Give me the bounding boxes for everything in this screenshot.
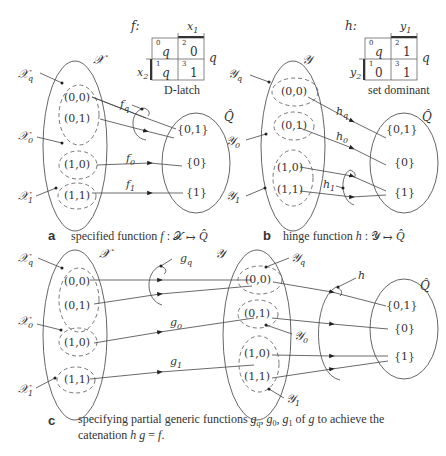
svg-text:(1,1): (1,1): [244, 370, 270, 383]
svg-text:𝒳1: 𝒳1: [18, 382, 33, 398]
svg-text:q: q: [162, 45, 170, 59]
panel-a-diagram: 𝒳 (0,0) (0,1) (1,0) (1,1) 𝒳q 𝒳0 𝒳1 fq f0…: [18, 52, 234, 231]
svg-text:{0,1}: {0,1}: [386, 299, 418, 312]
kmap-f-caption: D-latch: [164, 83, 200, 97]
svg-text:(1,1): (1,1): [64, 189, 90, 202]
svg-text:𝒴q: 𝒴q: [291, 251, 305, 267]
svg-text:c: c: [48, 413, 55, 428]
svg-text:(0,0): (0,0): [245, 273, 271, 286]
svg-text:1: 1: [403, 66, 411, 80]
svg-text:(0,0): (0,0): [64, 275, 90, 288]
svg-text:𝒳q: 𝒳q: [18, 67, 33, 83]
svg-text:1: 1: [156, 60, 160, 68]
svg-text:𝒴1: 𝒴1: [226, 189, 240, 205]
svg-text:Q̂: Q̂: [420, 278, 430, 293]
svg-text:gq: gq: [180, 252, 192, 267]
svg-text:g1: g1: [170, 355, 182, 370]
svg-text:y1: y1: [399, 20, 411, 35]
svg-text:(0,1): (0,1): [281, 119, 307, 132]
svg-text:{1}: {1}: [186, 186, 207, 199]
svg-text:1: 1: [190, 66, 198, 80]
svg-text:hinge function h : 𝒴 ↦ Q̂: hinge function h : 𝒴 ↦ Q̂: [283, 229, 405, 243]
svg-text:fq: fq: [119, 98, 129, 113]
kmap-f-name: f:: [130, 19, 139, 33]
svg-text:h0: h0: [336, 130, 348, 145]
svg-text:(0,0): (0,0): [281, 85, 307, 98]
svg-text:q: q: [162, 66, 170, 80]
svg-text:{0,1}: {0,1}: [177, 123, 209, 136]
svg-text:(1,1): (1,1): [277, 183, 303, 196]
svg-text:(1,0): (1,0): [64, 336, 90, 349]
panel-c-caption: c specifying partial generic functions g…: [48, 412, 384, 442]
svg-text:Q̂: Q̂: [224, 109, 234, 124]
svg-text:(0,1): (0,1): [64, 112, 90, 125]
svg-text:h1: h1: [323, 178, 335, 193]
svg-text:f0: f0: [125, 152, 135, 167]
svg-text:x1: x1: [187, 20, 198, 35]
svg-text:(1,0): (1,0): [244, 347, 270, 360]
svg-text:hq: hq: [336, 105, 348, 120]
svg-text:𝒳0: 𝒳0: [18, 129, 33, 145]
panel-c-diagram: 𝒳 (0,0) (0,1) (1,0) (1,1) 𝒳q 𝒳0 𝒳1 gq g0…: [18, 246, 438, 420]
svg-text:𝒳0: 𝒳0: [18, 314, 33, 330]
svg-text:𝒴0: 𝒴0: [294, 329, 308, 345]
svg-text:{1}: {1}: [394, 186, 415, 199]
svg-text:1: 1: [403, 45, 411, 59]
svg-text:𝒳: 𝒳: [99, 246, 114, 261]
svg-text:{0}: {0}: [394, 156, 415, 169]
svg-text:set dominant: set dominant: [368, 83, 430, 97]
svg-text:q: q: [209, 51, 217, 65]
svg-text:𝒳q: 𝒳q: [18, 251, 33, 267]
panel-a-caption: a specified function f : 𝒳 ↦ Q̂: [48, 228, 208, 243]
svg-text:y2: y2: [349, 66, 361, 81]
svg-text:0: 0: [190, 45, 198, 59]
panel-b-caption: b hinge function h : 𝒴 ↦ Q̂: [263, 228, 405, 243]
svg-text:3: 3: [182, 60, 186, 68]
svg-text:3: 3: [395, 60, 399, 68]
svg-text:specified function f : 𝒳 ↦ Q̂: specified function f : 𝒳 ↦ Q̂: [71, 229, 208, 243]
svg-text:𝒴: 𝒴: [215, 246, 229, 261]
figure-canvas: f: x1 0 q 2 0 1 q 3 1 x2 q D-latch h: y1…: [0, 0, 446, 456]
kmap-f: f: x1 0 q 2 0 1 q 3 1 x2 q D-latch: [130, 19, 217, 97]
svg-text:{0}: {0}: [186, 156, 207, 169]
svg-text:b: b: [263, 228, 271, 243]
svg-text:(1,0): (1,0): [277, 161, 303, 174]
svg-text:Q̂: Q̂: [422, 109, 432, 124]
svg-text:𝒴0: 𝒴0: [226, 134, 240, 150]
kmap-h: h: y1 0 q 2 1 1 0 3 1 y2 q set dominant: [345, 19, 430, 97]
svg-text:(0,0): (0,0): [64, 91, 90, 104]
svg-text:h:: h:: [345, 19, 357, 33]
svg-text:q: q: [422, 51, 430, 65]
svg-text:a: a: [48, 228, 56, 243]
svg-text:f1: f1: [125, 178, 135, 193]
svg-text:0: 0: [369, 39, 373, 47]
svg-text:(0,1): (0,1): [244, 307, 270, 320]
svg-text:h: h: [358, 269, 365, 282]
svg-text:(0,1): (0,1): [64, 299, 90, 312]
svg-text:x2: x2: [137, 66, 148, 81]
svg-text:𝒳1: 𝒳1: [18, 189, 33, 205]
svg-text:𝒴: 𝒴: [302, 52, 316, 67]
svg-text:1: 1: [369, 60, 373, 68]
svg-text:specifying partial generic fun: specifying partial generic functions gq,…: [78, 412, 384, 428]
svg-text:𝒴q: 𝒴q: [228, 67, 242, 83]
svg-text:0: 0: [375, 66, 383, 80]
svg-text:2: 2: [182, 39, 186, 47]
svg-text:(1,1): (1,1): [64, 373, 90, 386]
svg-text:𝒳: 𝒳: [93, 52, 108, 67]
svg-text:g0: g0: [170, 316, 182, 331]
svg-text:q: q: [375, 45, 383, 59]
svg-text:{0}: {0}: [394, 322, 415, 335]
svg-text:{1}: {1}: [394, 350, 415, 363]
svg-text:(1,0): (1,0): [64, 158, 90, 171]
svg-text:0: 0: [156, 39, 160, 47]
svg-text:{0,1}: {0,1}: [386, 123, 418, 136]
svg-text:𝒴1: 𝒴1: [286, 392, 300, 408]
svg-text:2: 2: [395, 39, 399, 47]
svg-text:catenation h g = f.: catenation h g = f.: [78, 428, 164, 442]
